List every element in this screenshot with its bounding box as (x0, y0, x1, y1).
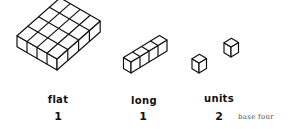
unit-cube-icon (224, 38, 239, 57)
long-label: long (131, 95, 157, 106)
units-count: 2 (215, 110, 223, 123)
unit-cube-icon (192, 54, 207, 73)
base-note: base four (238, 113, 274, 121)
long-block-icon (124, 36, 168, 74)
flat-block-icon (17, 0, 100, 70)
flat-count: 1 (54, 110, 62, 123)
long-count: 1 (139, 110, 147, 123)
flat-label: flat (48, 94, 69, 105)
units-label: units (204, 93, 234, 104)
